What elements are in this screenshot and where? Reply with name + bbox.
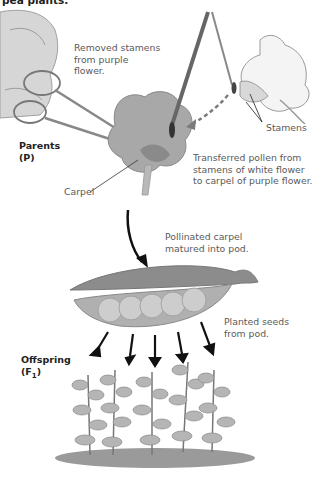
label-offspring: Offspring (F1): [21, 354, 71, 382]
caption-carpel: Carpel: [64, 186, 94, 198]
dashed-arrow-icon: [186, 95, 228, 130]
caption-planted-seeds: Planted seeds from pod.: [224, 316, 289, 339]
caption-transferred-pollen: Transferred pollen from stamens of white…: [193, 152, 313, 187]
soil: [55, 448, 255, 468]
caption-stamens: Stamens: [266, 122, 307, 134]
white-flower-icon: [240, 35, 309, 124]
caption-pollinated-carpel: Pollinated carpel matured into pod.: [165, 231, 249, 254]
label-parents: Parents (P): [19, 140, 60, 164]
illustration: [0, 0, 323, 481]
pea-plants-icon: [72, 362, 235, 455]
seed-arrows: [91, 322, 214, 366]
offspring-symbol: (F1): [21, 366, 71, 382]
caption-removed-stamens: Removed stamens from purple flower.: [74, 42, 160, 77]
curved-arrow-icon: [128, 210, 148, 268]
